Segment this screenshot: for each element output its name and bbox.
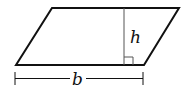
right-angle-marker [124,57,133,65]
parallelogram-shape [16,8,179,65]
base-dimension: b [15,69,143,89]
height-label: h [130,27,141,47]
base-label: b [72,69,83,89]
parallelogram-diagram: h b [0,0,189,93]
